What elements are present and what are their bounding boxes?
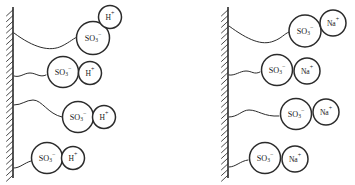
wall-hatch-mark (7, 112, 14, 118)
ion-formula-main: SO (257, 154, 268, 163)
wall-hatch-mark (222, 124, 229, 130)
sodium-ion: Na+ (282, 146, 308, 172)
wall-hatch-mark (222, 130, 229, 136)
wall-hatch-mark (222, 141, 229, 147)
ion-formula-subscript: 3 (49, 157, 52, 163)
wall-hatch-mark (7, 164, 14, 170)
wall-hatch-mark (222, 21, 229, 27)
sodium-form-panel: SO3−Na+SO3−Na+SO3−Na+SO3−Na+ (222, 7, 347, 181)
wall-hatch-mark (7, 33, 14, 39)
wall-hatch-mark (7, 67, 14, 73)
sulfonate-group: SO3− (48, 57, 79, 88)
wall-hatch-mark (7, 141, 14, 147)
wall-hatch-mark (7, 27, 14, 33)
wall-hatch-mark (222, 67, 229, 73)
ion-formula-main: SO (269, 66, 280, 75)
ion-formula-subscript: 3 (267, 157, 270, 163)
wall-hatch-mark (7, 90, 14, 96)
wall-hatch-mark (222, 112, 229, 118)
wall-hatch-mark (222, 95, 229, 101)
wall-hatch-mark (222, 118, 229, 124)
hydrogen-ion: H+ (93, 106, 116, 129)
wall-hatch-mark (7, 50, 14, 56)
wall-hatch-mark (222, 84, 229, 90)
wall-hatch-mark (7, 78, 14, 84)
diagram-canvas: SO3−H+SO3−H+SO3−H+SO3−H+SO3−Na+SO3−Na+SO… (0, 0, 355, 185)
ion-formula-main: SO (297, 27, 308, 36)
polymer-chain-2 (229, 71, 260, 75)
wall-hatch-mark (7, 38, 14, 44)
wall-hatch-mark (7, 21, 14, 27)
wall-hatch-mark (7, 130, 14, 136)
wall-hatch-mark (7, 118, 14, 124)
wall-hatch-mark (7, 101, 14, 107)
sulfonate-group: SO3− (32, 143, 63, 174)
figure-root: SO3−H+SO3−H+SO3−H+SO3−H+SO3−Na+SO3−Na+SO… (0, 0, 355, 185)
hydrogen-ion: H+ (62, 147, 85, 170)
wall-hatch-mark (7, 175, 14, 181)
wall-hatch-mark (222, 38, 229, 44)
polymer-chain-1 (14, 33, 79, 49)
ion-formula-subscript: 3 (65, 71, 68, 77)
sodium-ion: Na+ (313, 99, 339, 125)
ion-formula-main: SO (85, 34, 96, 43)
wall-hatch-mark (7, 84, 14, 90)
acid-form-panel: SO3−H+SO3−H+SO3−H+SO3−H+ (7, 6, 122, 182)
ion-formula-main: SO (70, 113, 81, 122)
hydrogen-ion: H+ (79, 62, 102, 85)
wall-hatch-mark (7, 73, 14, 79)
wall-hatch-mark (222, 73, 229, 79)
ion-formula-main: SO (39, 154, 50, 163)
wall-hatch-mark (222, 78, 229, 84)
wall-hatch-mark (7, 44, 14, 50)
sulfonate-group: SO3− (63, 102, 94, 133)
sodium-ion: Na+ (294, 58, 320, 84)
wall-hatch-mark (7, 10, 14, 16)
wall-hatch-mark (222, 135, 229, 141)
wall-hatch-mark (222, 107, 229, 113)
wall-hatch-mark (222, 175, 229, 181)
wall-hatch-mark (7, 152, 14, 158)
wall-hatch-mark (7, 61, 14, 67)
wall-hatch-mark (222, 27, 229, 33)
wall-hatch-mark (222, 158, 229, 164)
wall-hatch-mark (222, 10, 229, 16)
wall-hatch-mark (7, 169, 14, 175)
wall-hatch-mark (7, 124, 14, 130)
ion-formula-subscript: 3 (307, 30, 310, 36)
wall-hatch-mark (222, 169, 229, 175)
substrate-wall-left (7, 7, 14, 181)
polymer-chain-1 (229, 26, 289, 43)
sulfonate-group: SO3− (250, 143, 281, 174)
wall-hatch-mark (7, 16, 14, 22)
wall-hatch-mark (7, 107, 14, 113)
ion-formula-subscript: 3 (95, 37, 98, 43)
wall-hatch-mark (7, 135, 14, 141)
wall-hatch-mark (7, 95, 14, 101)
wall-hatch-mark (222, 147, 229, 153)
polymer-chain-3 (14, 100, 62, 117)
polymer-chain-4 (14, 161, 31, 168)
ion-formula-main: SO (55, 68, 66, 77)
wall-hatch-mark (222, 152, 229, 158)
wall-hatch-mark (222, 33, 229, 39)
wall-hatch-mark (222, 16, 229, 22)
sulfonate-group: SO3− (262, 55, 293, 86)
wall-hatch-mark (7, 147, 14, 153)
wall-hatch-mark (222, 164, 229, 170)
ion-formula-subscript: 3 (279, 69, 282, 75)
polymer-chain-4 (229, 160, 248, 167)
polymer-chain-3 (229, 110, 279, 117)
hydrogen-ion: H+ (99, 6, 122, 29)
wall-hatch-mark (7, 158, 14, 164)
wall-hatch-mark (222, 61, 229, 67)
substrate-wall-right (222, 7, 229, 181)
wall-hatch-mark (222, 90, 229, 96)
wall-hatch-mark (7, 55, 14, 61)
wall-hatch-mark (222, 50, 229, 56)
wall-hatch-mark (222, 44, 229, 50)
ion-formula-main: SO (288, 110, 299, 119)
polymer-chain-2 (14, 73, 46, 76)
sodium-ion: Na+ (320, 10, 346, 36)
sulfonate-group: SO3− (281, 99, 312, 130)
